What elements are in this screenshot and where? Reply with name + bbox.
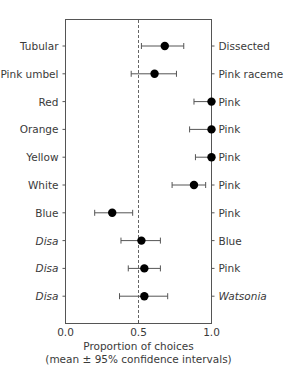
x-tick-label: 0.0 bbox=[57, 326, 74, 338]
data-row: WhitePink bbox=[28, 179, 241, 191]
mean-point bbox=[190, 181, 198, 189]
right-label: Pink bbox=[219, 179, 242, 191]
right-label: Pink raceme bbox=[219, 68, 284, 80]
left-label: Disa bbox=[36, 235, 59, 247]
right-label: Blue bbox=[219, 235, 242, 247]
mean-point bbox=[150, 70, 158, 78]
data-rows: TubularDissectedPink umbelPink racemeRed… bbox=[0, 40, 283, 302]
x-tick-label: 1.0 bbox=[203, 326, 220, 338]
x-axis-label: Proportion of choices bbox=[83, 340, 193, 352]
right-label: Watsonia bbox=[219, 290, 267, 302]
left-label: Blue bbox=[35, 207, 58, 219]
mean-point bbox=[161, 42, 169, 50]
dot-plot-chart: TubularDissectedPink umbelPink racemeRed… bbox=[0, 0, 285, 378]
left-label: Red bbox=[39, 96, 59, 108]
data-row: YellowPink bbox=[25, 151, 241, 163]
left-label: Orange bbox=[20, 123, 59, 135]
left-label: Tubular bbox=[19, 40, 59, 52]
data-row: Pink umbelPink raceme bbox=[0, 68, 283, 80]
x-tick-label: 0.5 bbox=[130, 326, 147, 338]
data-row: TubularDissected bbox=[19, 40, 270, 52]
right-label: Dissected bbox=[219, 40, 270, 52]
mean-point bbox=[140, 292, 148, 300]
x-axis-ticks: 0.00.51.0 bbox=[57, 320, 220, 338]
right-label: Pink bbox=[219, 151, 242, 163]
mean-point bbox=[137, 236, 145, 244]
right-label: Pink bbox=[219, 262, 242, 274]
right-label: Pink bbox=[219, 96, 242, 108]
mean-point bbox=[140, 264, 148, 272]
mean-point bbox=[207, 153, 215, 161]
left-label: Disa bbox=[36, 262, 59, 274]
left-label: Yellow bbox=[25, 151, 59, 163]
mean-point bbox=[108, 209, 116, 217]
right-label: Pink bbox=[219, 207, 242, 219]
left-label: Disa bbox=[36, 290, 59, 302]
data-row: RedPink bbox=[39, 96, 242, 108]
x-axis-sublabel: (mean ± 95% confidence intervals) bbox=[45, 353, 231, 365]
mean-point bbox=[207, 125, 215, 133]
right-label: Pink bbox=[219, 123, 242, 135]
left-label: White bbox=[28, 179, 59, 191]
data-row: OrangePink bbox=[20, 123, 241, 135]
mean-point bbox=[207, 97, 215, 105]
left-label: Pink umbel bbox=[0, 68, 58, 80]
data-row: DisaWatsonia bbox=[36, 290, 267, 302]
